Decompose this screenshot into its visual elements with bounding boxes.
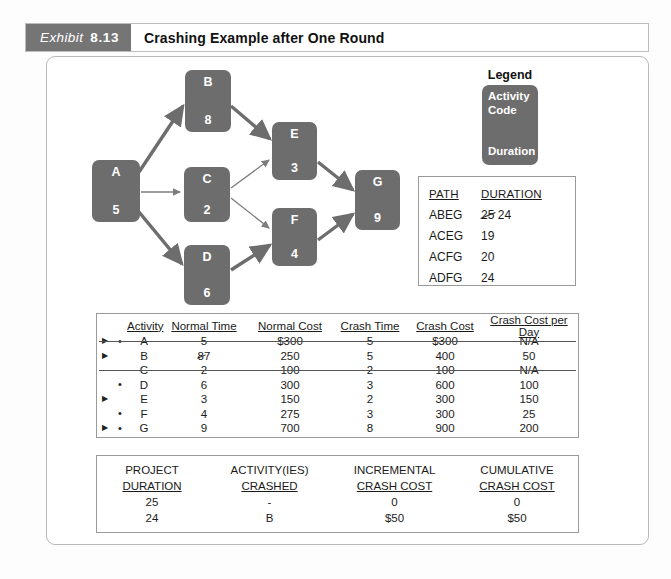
cell-crash-cost-per-day: 150 bbox=[483, 393, 575, 405]
legend-line-code: Code bbox=[488, 104, 538, 118]
cell-crash-cost-per-day: 100 bbox=[483, 379, 575, 391]
cell-crash-time: 3 bbox=[333, 379, 407, 391]
network-node-g[interactable]: G 9 bbox=[355, 170, 400, 230]
cell-activity: G bbox=[127, 422, 161, 434]
cell-crash-time: 5 bbox=[333, 350, 407, 362]
summary-cell-duration: 25 bbox=[97, 496, 207, 508]
node-b-code: B bbox=[203, 70, 212, 89]
path-duration-table: PATH DURATION ABEG 25 24 ACEG 19 ACFG 20… bbox=[418, 176, 576, 286]
cell-normal-time-old: 8 bbox=[198, 350, 204, 362]
network-node-b[interactable]: B 8 bbox=[185, 70, 231, 132]
row-dot-marker: • bbox=[113, 423, 127, 434]
path-duration-old: 25 bbox=[481, 208, 494, 222]
node-f-duration: 4 bbox=[291, 247, 298, 266]
cell-normal-time: 2 bbox=[161, 364, 247, 376]
cell-normal-time: 6 bbox=[161, 379, 247, 391]
summary-row: 24 B $50 $50 bbox=[97, 510, 578, 526]
node-e-code: E bbox=[290, 122, 298, 141]
path-duration: 20 bbox=[481, 250, 551, 264]
exhibit-label: Exhibit bbox=[40, 30, 83, 45]
path-header-duration: DURATION bbox=[481, 188, 542, 200]
cell-normal-time: 87 bbox=[161, 350, 247, 362]
network-node-e[interactable]: E 3 bbox=[272, 122, 317, 180]
crash-summary-table: PROJECT ACTIVITY(IES) INCREMENTAL CUMULA… bbox=[96, 455, 579, 533]
cell-crash-cost: 600 bbox=[407, 379, 483, 391]
legend-title: Legend bbox=[465, 68, 555, 82]
node-g-duration: 9 bbox=[374, 211, 381, 230]
path-duration-new: 24 bbox=[498, 208, 511, 222]
cell-crash-cost: 100 bbox=[407, 364, 483, 376]
exhibit-badge: Exhibit 8.13 bbox=[26, 24, 131, 51]
cell-crash-cost: 300 bbox=[407, 408, 483, 420]
header-crash-time: Crash Time bbox=[333, 320, 407, 332]
header-crash-cost: Crash Cost bbox=[407, 320, 483, 332]
path-table-header-row: PATH DURATION bbox=[429, 183, 575, 204]
cell-activity: B bbox=[127, 350, 161, 362]
row-arrow-marker: ▶ bbox=[97, 395, 113, 403]
cell-normal-cost: 250 bbox=[247, 350, 333, 362]
path-table-row: ACFG 20 bbox=[429, 246, 575, 267]
cell-normal-cost: 700 bbox=[247, 422, 333, 434]
legend-line-duration: Duration bbox=[488, 145, 538, 159]
row-dot-marker: • bbox=[113, 379, 127, 390]
cell-crash-cost: 300 bbox=[407, 393, 483, 405]
path-name: ADFG bbox=[429, 271, 481, 285]
summary-header-activities: ACTIVITY(IES) bbox=[207, 464, 332, 476]
path-table-row: ACEG 19 bbox=[429, 225, 575, 246]
summary-cell-cumulative: 0 bbox=[457, 496, 577, 508]
cell-crash-cost-per-day: N/A bbox=[483, 364, 575, 376]
node-c-code: C bbox=[202, 167, 211, 186]
network-node-f[interactable]: F 4 bbox=[272, 208, 317, 266]
path-duration: 25 24 bbox=[481, 208, 551, 222]
cell-crash-cost-per-day: 50 bbox=[483, 350, 575, 362]
cell-normal-time: 5 bbox=[161, 335, 247, 347]
network-node-d[interactable]: D 6 bbox=[184, 245, 230, 305]
legend: Legend Activity Code Duration bbox=[465, 68, 555, 165]
exhibit-title: Crashing Example after One Round bbox=[131, 24, 385, 51]
cell-activity: A bbox=[127, 335, 161, 347]
row-dot-marker: • bbox=[113, 336, 127, 347]
exhibit-page: Exhibit 8.13 Crashing Example after One … bbox=[0, 0, 671, 579]
summary-header-incremental-cost: CRASH COST bbox=[357, 480, 432, 492]
path-table-row: ABEG 25 24 bbox=[429, 204, 575, 225]
activity-table-header-row: Activity Normal Time Normal Cost Crash T… bbox=[97, 314, 578, 334]
summary-cell-incremental: $50 bbox=[332, 512, 457, 524]
summary-cell-incremental: 0 bbox=[332, 496, 457, 508]
node-b-duration: 8 bbox=[205, 113, 212, 132]
row-arrow-marker: ▶ bbox=[97, 352, 113, 360]
table-row: ▶ • G 9 700 8 900 200 bbox=[97, 421, 578, 436]
network-node-c[interactable]: C 2 bbox=[184, 167, 230, 222]
table-row: ▶ B 87 250 5 400 50 bbox=[97, 349, 578, 364]
node-e-duration: 3 bbox=[291, 161, 298, 180]
summary-row: 25 - 0 0 bbox=[97, 494, 578, 510]
cell-crash-time: 2 bbox=[333, 393, 407, 405]
summary-header-duration: DURATION bbox=[122, 480, 181, 492]
cell-normal-cost: $300 bbox=[247, 335, 333, 347]
cell-normal-cost: 100 bbox=[247, 364, 333, 376]
cell-crash-cost-per-day: N/A bbox=[483, 335, 575, 347]
activity-cost-table: Activity Normal Time Normal Cost Crash T… bbox=[96, 313, 579, 438]
row-arrow-marker: ▶ bbox=[97, 337, 113, 345]
header-normal-time: Normal Time bbox=[161, 320, 247, 332]
path-name: ACFG bbox=[429, 250, 481, 264]
table-row: ▶ • A 5 $300 5 $300 N/A bbox=[97, 334, 578, 349]
cell-activity: E bbox=[127, 393, 161, 405]
cell-activity: D bbox=[127, 379, 161, 391]
summary-cell-crashed: B bbox=[207, 512, 332, 524]
cell-crash-time: 2 bbox=[333, 364, 407, 376]
node-d-code: D bbox=[202, 245, 211, 264]
cell-activity: C bbox=[127, 364, 161, 376]
cell-crash-cost: 400 bbox=[407, 350, 483, 362]
legend-line-activity: Activity bbox=[488, 90, 538, 104]
header-activity: Activity bbox=[127, 320, 161, 332]
table-row: ▶ E 3 150 2 300 150 bbox=[97, 392, 578, 407]
cell-normal-time: 3 bbox=[161, 393, 247, 405]
path-duration: 24 bbox=[481, 271, 551, 285]
cell-normal-cost: 275 bbox=[247, 408, 333, 420]
cell-crash-time: 5 bbox=[333, 335, 407, 347]
table-row: • F 4 275 3 300 25 bbox=[97, 407, 578, 422]
cell-crash-cost: $300 bbox=[407, 335, 483, 347]
network-node-a[interactable]: A 5 bbox=[92, 160, 140, 222]
row-arrow-marker: ▶ bbox=[97, 424, 113, 432]
cell-normal-time-new: 7 bbox=[204, 350, 210, 362]
